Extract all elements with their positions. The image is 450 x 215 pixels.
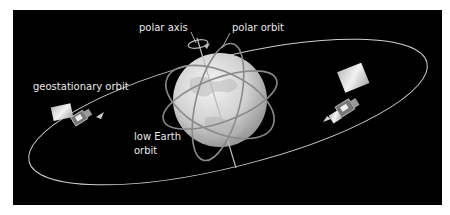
- polar-orbit-label: polar orbit: [232, 22, 284, 34]
- left-orbit-arrow: [96, 112, 104, 119]
- left-satellite: [47, 91, 93, 135]
- earth-globe: [173, 53, 267, 147]
- geostationary-orbit-label: geostationary orbit: [33, 81, 129, 93]
- orbit-diagram: [0, 0, 450, 215]
- polar-orbit-leader: [222, 33, 230, 48]
- polar-axis-label: polar axis: [139, 22, 188, 34]
- low-earth-orbit-label-line1: low Earth: [134, 131, 181, 143]
- low-earth-orbit-label-line2: orbit: [134, 145, 157, 157]
- right-satellite: [311, 59, 380, 124]
